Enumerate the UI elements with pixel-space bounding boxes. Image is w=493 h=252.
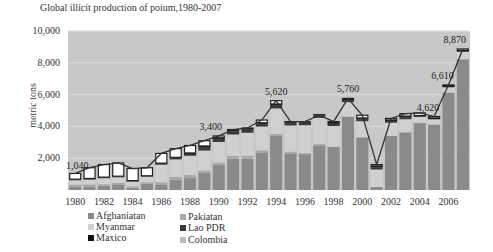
bar-segment — [141, 168, 152, 176]
bar-segment — [299, 154, 311, 190]
bar-segment — [356, 119, 368, 122]
legend-swatch — [88, 224, 94, 230]
bar-segment — [127, 186, 139, 187]
bar-segment — [112, 183, 124, 185]
bar-segment — [141, 182, 153, 183]
legend-label: Colombia — [188, 234, 227, 245]
bar-segment — [198, 151, 210, 171]
bar-segment — [285, 152, 297, 154]
bar-segment — [442, 87, 454, 92]
bar-segment — [313, 118, 325, 144]
bar-segment — [428, 125, 440, 190]
bar-segment — [69, 180, 81, 184]
legend-item-colombia: Colombia — [180, 234, 227, 245]
bar-segment — [155, 165, 167, 182]
bar-segment — [213, 139, 225, 142]
bar-segment — [371, 169, 383, 186]
bar-segment — [241, 159, 253, 190]
legend-item-pakistan: Pakiatan — [180, 211, 222, 222]
bar-segment — [198, 147, 210, 150]
legend-label: Pakiatan — [188, 211, 222, 222]
bar-segment — [371, 167, 383, 169]
bar-segment — [213, 165, 225, 190]
bar-segment — [328, 147, 340, 190]
legend-item-mexico: Maxico — [88, 232, 127, 243]
bar-segment — [399, 133, 411, 190]
bar-segment — [328, 126, 340, 147]
data-label: 3,400 — [200, 121, 223, 132]
bar-segment — [155, 184, 167, 190]
bar-segment — [241, 133, 253, 156]
chart-plot: 1,0403,4005,6205,7604,6206,6108,870 — [0, 0, 493, 252]
bar-segment — [98, 165, 109, 178]
bar-segment — [241, 129, 253, 133]
bar-segment — [270, 136, 282, 190]
bar-segment — [414, 117, 426, 123]
bar-segment — [84, 184, 96, 186]
bar-segment — [256, 153, 268, 190]
bar-segment — [184, 156, 196, 175]
bar-segment — [299, 125, 311, 153]
bar-segment — [328, 124, 340, 126]
bar-segment — [84, 180, 96, 185]
bar-segment — [299, 122, 311, 125]
bar-segment — [112, 184, 124, 190]
bar-segment — [198, 170, 210, 172]
bar-segment — [342, 117, 354, 190]
bar-segment — [170, 177, 182, 180]
bar-segment — [170, 159, 182, 176]
legend-swatch — [180, 237, 186, 243]
legend-swatch — [88, 235, 94, 241]
bar-segment — [428, 119, 440, 124]
bar-segment — [270, 134, 282, 136]
bar-segment — [70, 173, 81, 179]
bar-segment — [285, 125, 297, 151]
bar-segment — [69, 184, 81, 186]
bar-segment — [184, 154, 196, 156]
bar-segment — [299, 153, 311, 154]
bar-segment — [127, 182, 139, 187]
bar-segment — [457, 60, 469, 190]
bar-segment — [198, 173, 210, 190]
bar-segment — [112, 177, 124, 183]
data-label: 4,620 — [417, 102, 440, 113]
legend-label: Afghaniatan — [96, 210, 145, 221]
bar-segment — [141, 184, 153, 190]
bar-segment — [98, 178, 110, 184]
bar-segment — [399, 117, 411, 119]
bar-segment — [270, 108, 282, 133]
bar-segment — [285, 123, 297, 126]
legend-item-myanmar: Myanmar — [88, 221, 135, 232]
legend-item-lao-pdr: Lao PDR — [180, 222, 226, 233]
bar-segment — [342, 100, 354, 102]
legend-item-afghanistan: Afghaniatan — [88, 210, 145, 221]
bar-segment — [213, 142, 225, 163]
bar-segment — [84, 186, 96, 190]
data-label: 1,040 — [66, 160, 89, 171]
bar-segment — [256, 150, 268, 153]
bar-segment — [155, 182, 167, 184]
bar-segment — [184, 178, 196, 190]
bar-segment — [399, 119, 411, 132]
bar-segment — [156, 153, 167, 163]
bar-segment — [227, 156, 239, 159]
x-tick-label: 2006 — [428, 196, 468, 207]
bar-segment — [98, 186, 110, 190]
bar-segment — [385, 121, 397, 123]
bar-segment — [241, 156, 253, 159]
bar-segment — [184, 175, 196, 178]
bar-segment — [414, 123, 426, 124]
bar-segment — [127, 188, 139, 190]
bar-segment — [227, 159, 239, 190]
bar-segment — [127, 169, 138, 181]
bar-segment — [428, 124, 440, 125]
bar-segment — [256, 127, 268, 151]
bar-segment — [313, 145, 325, 190]
legend-swatch — [180, 225, 186, 231]
bar-segment — [442, 93, 454, 190]
bar-segment — [227, 135, 239, 156]
bar-segment — [170, 180, 182, 190]
bar-segment — [170, 158, 182, 160]
legend-label: Myanmar — [96, 221, 135, 232]
bar-segment — [414, 123, 426, 190]
